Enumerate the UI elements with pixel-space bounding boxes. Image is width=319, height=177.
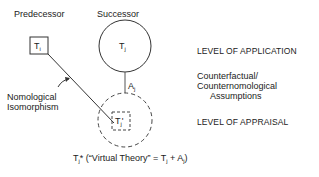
annotation-line1: Nomological [7,92,57,102]
aj-label: Aj [128,81,135,94]
predecessor-label: Predecessor [14,9,65,19]
virtual-theory-caption: Tj* (“Virtual Theory” = Tj + Aj) [73,153,188,166]
virtual-theory-circle [98,93,152,147]
assumptions-line3: Assumptions [210,91,262,101]
ti-label: Ti [34,41,41,54]
arrow-head-icon [65,77,70,82]
tj-label: Tj [119,41,126,54]
assumptions-line2: Counternomological [197,81,277,91]
tj-prime-label: Tj' [115,116,124,129]
successor-label: Successor [97,9,139,19]
annotation-line2: Isomorphism [7,102,59,112]
assumptions-line1: Counterfactual/ [197,71,258,81]
level-appraisal-label: LEVEL OF APPRAISAL [197,117,288,127]
level-application-label: LEVEL OF APPLICATION [197,46,297,56]
isomorphism-line [48,54,114,123]
